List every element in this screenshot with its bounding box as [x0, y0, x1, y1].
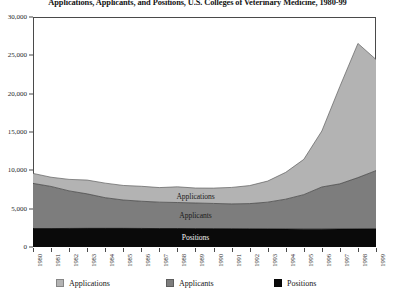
x-tick-label: 1986 [144, 254, 151, 267]
y-tick-label: 5,000 [11, 205, 27, 213]
legend-swatch-icon [56, 279, 64, 287]
x-tick-mark [87, 248, 88, 252]
x-tick-mark [304, 248, 305, 252]
plot-area: Applications Applicants Positions [33, 17, 376, 247]
x-tick-label: 1980 [36, 254, 43, 267]
x-tick-label: 1988 [180, 254, 187, 267]
x-tick-mark [214, 248, 215, 252]
x-tick-mark [105, 248, 106, 252]
x-tick-mark [376, 248, 377, 252]
x-tick-mark [51, 248, 52, 252]
x-tick-label: 1992 [253, 254, 260, 267]
x-tick-label: 1982 [72, 254, 79, 267]
legend-item[interactable]: Applicants [166, 277, 214, 289]
y-tick-label: 0 [24, 243, 28, 251]
x-tick-label: 1984 [108, 254, 115, 267]
y-tick-label: 20,000 [8, 90, 27, 98]
chart-title: Applications, Applicants, and Positions,… [0, 0, 395, 8]
x-tick-mark [340, 248, 341, 252]
x-tick-mark [268, 248, 269, 252]
x-tick-mark [195, 248, 196, 252]
legend-label: Applicants [179, 279, 214, 288]
series-label-positions: Positions [182, 233, 209, 242]
y-tick-label: 10,000 [8, 166, 27, 174]
x-tick-label: 1996 [325, 254, 332, 267]
legend-label: Positions [287, 279, 316, 288]
y-tick-label: 25,000 [8, 51, 27, 59]
y-tick-label: 30,000 [8, 13, 27, 21]
series-label-applicants: Applicants [179, 210, 211, 219]
y-axis: 05,00010,00015,00020,00025,00030,000 [0, 17, 33, 248]
x-tick-mark [250, 248, 251, 252]
x-tick-mark [286, 248, 287, 252]
legend-item[interactable]: Applications [56, 277, 110, 289]
chart-legend: ApplicationsApplicantsPositions [0, 277, 395, 291]
x-tick-mark [322, 248, 323, 252]
x-tick-label: 1990 [217, 254, 224, 267]
x-tick-label: 1994 [289, 254, 296, 267]
x-tick-mark [177, 248, 178, 252]
x-tick-mark [358, 248, 359, 252]
x-tick-mark [159, 248, 160, 252]
x-tick-label: 1999 [379, 254, 386, 267]
x-tick-mark [232, 248, 233, 252]
x-tick-label: 1989 [198, 254, 205, 267]
legend-label: Applications [69, 279, 110, 288]
x-tick-label: 1983 [90, 254, 97, 267]
x-tick-label: 1998 [361, 254, 368, 267]
x-tick-mark [123, 248, 124, 252]
legend-swatch-icon [274, 279, 282, 287]
x-tick-label: 1991 [235, 254, 242, 267]
x-tick-label: 1995 [307, 254, 314, 267]
x-tick-mark [69, 248, 70, 252]
x-tick-label: 1987 [162, 254, 169, 267]
y-tick-label: 15,000 [8, 128, 27, 136]
x-tick-label: 1997 [343, 254, 350, 267]
series-label-applications: Applications [176, 191, 214, 200]
chart-figure: Applications, Applicants, and Positions,… [0, 0, 395, 294]
x-tick-label: 1985 [126, 254, 133, 267]
x-tick-label: 1993 [271, 254, 278, 267]
x-tick-mark [33, 248, 34, 252]
x-tick-mark [141, 248, 142, 252]
x-tick-label: 1981 [54, 254, 61, 267]
legend-swatch-icon [166, 279, 174, 287]
legend-item[interactable]: Positions [274, 277, 316, 289]
